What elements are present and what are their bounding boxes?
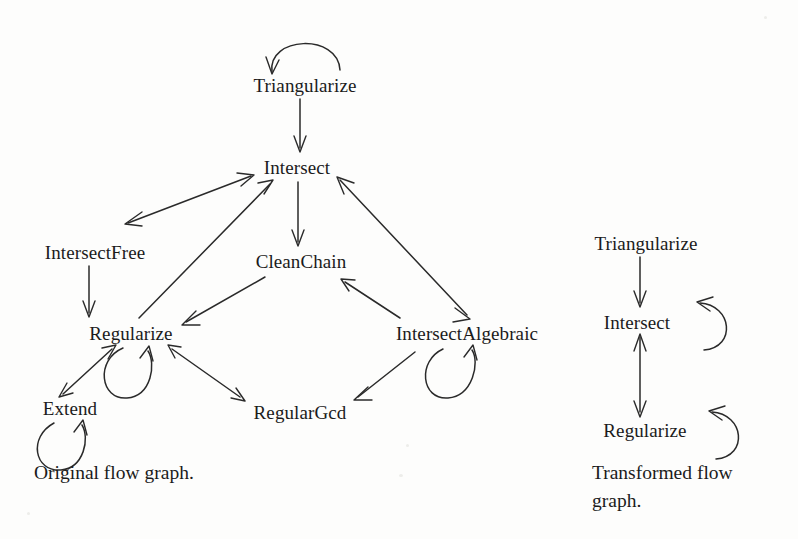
node-label-regularize: Regularize [89,324,172,343]
node-label-t-regularize: Regularize [603,421,686,440]
edge-t-intersect-t-regularize [634,334,646,417]
node-label-t-intersect: Intersect [604,313,670,332]
self-loop-t-regularize [709,406,738,459]
self-loop-intersectalgebraic [425,345,477,398]
self-loop-triangularize [266,44,340,74]
node-label-intersect: Intersect [264,158,330,177]
edge-intersectalgebraic-intersect [337,177,470,322]
edge-regularize-to-intersect [139,180,273,318]
edge-intersectalgebraic-to-regulargcd [354,352,415,400]
node-label-regulargcd: RegularGcd [254,403,347,422]
node-label-extend: Extend [43,399,97,418]
node-label-t-triangularize: Triangularize [595,234,698,253]
node-label-cleanchain: CleanChain [256,252,347,271]
edge-intersect-to-cleanchain [292,182,304,246]
node-label-intersectalgebraic: IntersectAlgebraic [396,324,538,343]
edge-intersect-intersectfree [125,173,254,226]
node-label-triangularize: Triangularize [254,76,357,95]
edge-t-triangularize-to-t-intersect [634,257,646,307]
flow-graph-figure: Triangularize Intersect IntersectFree Cl… [0,0,798,539]
caption-transformed-flow-graph: Transformed flow graph. [592,459,772,516]
node-label-intersectfree: IntersectFree [45,243,145,262]
edge-triangularize-to-intersect [294,99,306,152]
edge-intersectalgebraic-to-cleanchain [341,279,400,318]
edge-cleanchain-to-regularize [182,277,265,325]
self-loop-t-intersect [697,297,726,350]
edge-regulargcd-regularize [168,345,245,401]
caption-original-flow-graph: Original flow graph. [34,459,194,487]
edge-intersectfree-to-regularize [83,266,95,317]
